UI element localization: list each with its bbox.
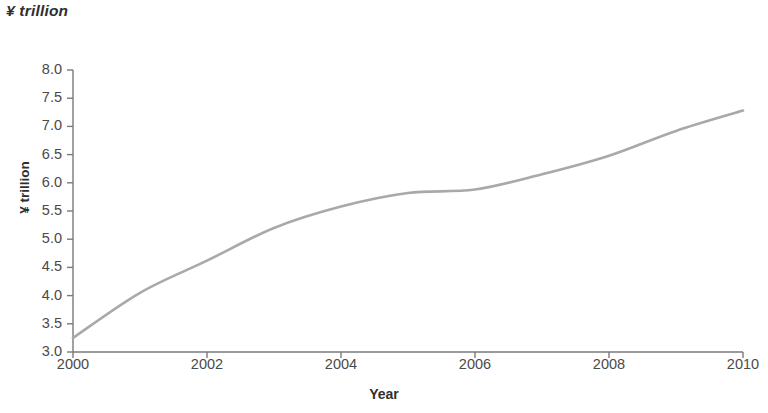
axis-lines (73, 70, 743, 352)
plot-area (0, 0, 768, 413)
axis-ticks (67, 70, 743, 358)
data-series-line (73, 111, 743, 338)
line-chart: ¥ trillion ¥ trillion Year 3.03.54.04.55… (0, 0, 768, 413)
